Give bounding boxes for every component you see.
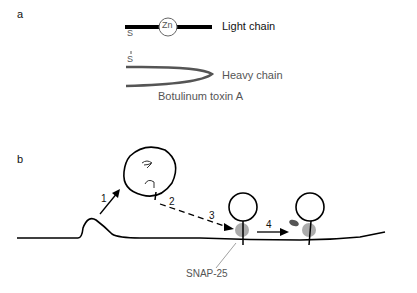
vesicle-2: [296, 193, 324, 221]
step-2: 2: [169, 196, 175, 207]
toxin-caption: Botulinum toxin A: [158, 90, 243, 102]
arrow-2-3: [160, 204, 230, 228]
step-3: 3: [209, 210, 215, 221]
endosome: [124, 147, 176, 196]
step-4: 4: [266, 219, 272, 230]
heavy-chain-label: Heavy chain: [222, 69, 283, 81]
cell-membrane: [17, 219, 385, 240]
panel-b-label: b: [17, 153, 23, 165]
sulfur-bottom: S: [127, 54, 133, 64]
snap-pointer: [216, 243, 236, 268]
zinc-label: Zn: [162, 20, 173, 30]
sulfur-top: S: [127, 28, 133, 38]
vesicle-1: [229, 193, 257, 221]
diagram-canvas: [0, 0, 417, 293]
panel-a-label: a: [17, 8, 23, 20]
step-1: 1: [101, 193, 107, 204]
snap-25-label: SNAP-25: [186, 268, 228, 279]
heavy-chain-curve: [126, 67, 212, 86]
light-chain-label: Light chain: [222, 20, 275, 32]
